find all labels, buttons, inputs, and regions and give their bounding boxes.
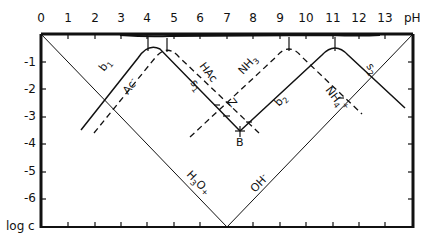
x-tick-9: 9 — [276, 11, 284, 25]
x-axis-label: pH — [404, 11, 421, 25]
b1-s1-curve — [81, 47, 240, 131]
curve-labels: b1 Ac- s1 HAc NH3 Z b2 NH4+ s2 B H3O+ OH… — [96, 52, 380, 199]
x-tick-3: 3 — [117, 11, 125, 25]
label-h3o: H3O+ — [182, 168, 213, 199]
label-b2: b2 — [272, 91, 291, 110]
x-tick-labels: 0 1 2 3 4 5 6 7 8 9 10 11 12 13 — [37, 11, 392, 25]
label-nh4: NH4+ — [321, 83, 351, 115]
label-point-b: B — [236, 136, 244, 149]
y-tick-minus1: -1 — [24, 55, 36, 69]
x-tick-8: 8 — [249, 11, 257, 25]
y-tick-labels: -1 -2 -3 -4 -5 -6 — [24, 55, 36, 205]
y-tick-minus6: -6 — [24, 191, 36, 205]
log-concentration-diagram: 0 1 2 3 4 5 6 7 8 9 10 11 12 13 pH -1 -2… — [0, 0, 427, 243]
x-tick-1: 1 — [64, 11, 72, 25]
x-tick-5: 5 — [170, 11, 178, 25]
x-tick-7: 7 — [223, 11, 231, 25]
label-z: Z — [225, 96, 240, 110]
x-tick-2: 2 — [91, 11, 99, 25]
y-tick-minus3: -3 — [24, 109, 36, 123]
label-s2: s2 — [362, 61, 380, 78]
x-tick-11: 11 — [325, 11, 340, 25]
label-oh: OH- — [247, 171, 271, 195]
x-tick-6: 6 — [196, 11, 204, 25]
label-b1: b1 — [96, 56, 115, 75]
ac-hac-curve — [94, 50, 259, 133]
crossing-markers — [148, 37, 344, 137]
y-tick-minus5: -5 — [24, 164, 36, 178]
x-tick-12: 12 — [351, 11, 366, 25]
y-tick-minus2: -2 — [24, 82, 36, 96]
x-tick-4: 4 — [143, 11, 151, 25]
x-tick-10: 10 — [298, 11, 313, 25]
y-tick-minus4: -4 — [24, 136, 36, 150]
b2-s2-curve — [240, 48, 405, 131]
y-axis-label: log c — [6, 219, 35, 233]
x-tick-13: 13 — [377, 11, 392, 25]
x-tick-0: 0 — [37, 11, 45, 25]
